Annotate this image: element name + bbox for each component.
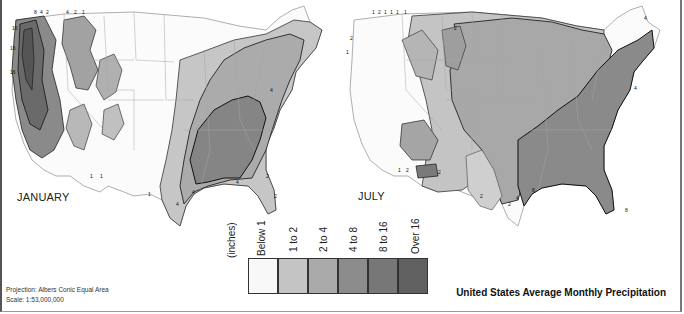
svg-text:4: 4 [40, 9, 43, 15]
legend-label-over-16: Over 16 [410, 218, 421, 254]
january-label: JANUARY [17, 191, 70, 203]
svg-text:2: 2 [274, 193, 277, 199]
svg-text:4: 4 [644, 15, 647, 21]
legend-swatch-over-16 [398, 258, 428, 294]
svg-text:1: 1 [396, 9, 399, 15]
legend-label-4-to-8: 4 to 8 [348, 227, 359, 252]
legend-swatch-8-to-16 [368, 258, 398, 294]
svg-text:2: 2 [454, 25, 457, 31]
legend-label-8-to-16: 8 to 16 [378, 221, 389, 252]
map-info: Projection: Albers Conic Equal Area Scal… [6, 285, 109, 305]
svg-text:1: 1 [346, 49, 349, 55]
legend-swatch-below-1 [248, 258, 278, 294]
svg-text:1: 1 [404, 9, 407, 15]
svg-text:8: 8 [625, 207, 628, 213]
svg-text:16: 16 [10, 69, 16, 75]
svg-text:2: 2 [378, 9, 381, 15]
july-map: 1 2 1 1 1 1 2 2 1 1 2 2 2 2 4 8 8 4 4 [342, 0, 678, 250]
svg-text:2: 2 [480, 193, 483, 199]
legend-swatch-1-to-2 [278, 258, 308, 294]
svg-text:2: 2 [266, 173, 269, 179]
svg-text:2: 2 [74, 9, 77, 15]
svg-text:1: 1 [90, 173, 93, 179]
svg-text:1: 1 [384, 9, 387, 15]
svg-text:1: 1 [398, 167, 401, 173]
july-label: JULY [358, 190, 385, 202]
svg-text:1: 1 [372, 9, 375, 15]
svg-text:2: 2 [350, 35, 353, 41]
figure-title: United States Average Monthly Precipitat… [456, 287, 666, 298]
svg-text:2: 2 [46, 9, 49, 15]
legend-label-1-to-2: 1 to 2 [288, 227, 299, 252]
us-outline-july [350, 6, 660, 226]
svg-text:4: 4 [634, 85, 637, 91]
svg-text:1: 1 [82, 9, 85, 15]
svg-text:1: 1 [390, 9, 393, 15]
svg-text:4: 4 [516, 195, 519, 201]
svg-text:16: 16 [10, 45, 16, 51]
svg-text:4: 4 [236, 179, 239, 185]
scale-text: Scale: 1:53,000,000 [6, 295, 109, 305]
projection-text: Projection: Albers Conic Equal Area [6, 285, 109, 295]
svg-text:4: 4 [176, 201, 179, 207]
legend-label-2-to-4: 2 to 4 [318, 227, 329, 252]
svg-text:2: 2 [508, 201, 511, 207]
svg-text:4: 4 [192, 189, 195, 195]
svg-text:8: 8 [532, 187, 535, 193]
legend-swatch-2-to-4 [308, 258, 338, 294]
svg-text:16: 16 [12, 25, 18, 31]
svg-text:2: 2 [438, 169, 441, 175]
legend-label-below-1: Below 1 [256, 220, 267, 256]
svg-text:8: 8 [34, 9, 37, 15]
svg-text:2: 2 [406, 167, 409, 173]
svg-text:4: 4 [66, 9, 69, 15]
svg-text:1: 1 [100, 173, 103, 179]
legend-swatch-4-to-8 [338, 258, 368, 294]
svg-text:4: 4 [270, 87, 273, 93]
svg-text:1: 1 [148, 191, 151, 197]
legend-unit-label: (inches) [226, 222, 237, 258]
january-map: 8 4 2 4 2 1 16 16 16 1 1 1 4 4 4 2 2 4 [4, 0, 340, 250]
